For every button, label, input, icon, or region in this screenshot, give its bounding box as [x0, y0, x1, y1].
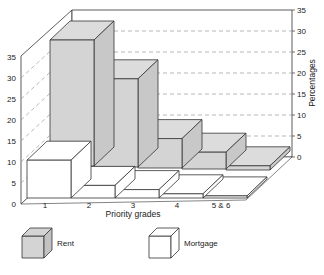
right-tick-label: 10: [297, 111, 306, 120]
left-tick-label: 35: [7, 53, 16, 62]
x-tick-label: 1: [43, 201, 48, 210]
bar-front-face: [203, 196, 247, 198]
left-tick-label: 10: [7, 158, 16, 167]
right-tick-label: 0: [297, 153, 302, 162]
x-axis-title: Priority grades: [106, 209, 161, 219]
left-tick-label: 0: [12, 200, 17, 209]
left-tick-label: 15: [7, 137, 16, 146]
left-y-axis-ticks: 05101520253035: [7, 53, 16, 209]
right-y-axis-ticks: 05101520253035: [292, 6, 306, 162]
x-tick-label: 2: [87, 201, 92, 210]
y-axis-title: Percentages: [307, 59, 317, 107]
legend-mortgage-label: Mortgage: [184, 239, 218, 248]
left-tick-label: 30: [7, 74, 16, 83]
bar-chart-3d: 05101520253035 05101520253035 12345 & 6 …: [0, 0, 324, 275]
legend-rent-swatch-icon: [22, 228, 52, 258]
bar-front-face: [226, 166, 270, 170]
bar-side-face: [138, 60, 158, 167]
left-tick-label: 25: [7, 95, 16, 104]
left-tick-label: 5: [12, 179, 17, 188]
legend: Rent Mortgage: [22, 228, 218, 258]
right-tick-label: 5: [297, 132, 302, 141]
right-tick-label: 30: [297, 27, 306, 36]
bar-front-face: [27, 160, 71, 198]
right-tick-label: 25: [297, 48, 306, 57]
bar-front-face: [159, 194, 203, 198]
right-tick-label: 20: [297, 69, 306, 78]
right-tick-label: 15: [297, 90, 306, 99]
legend-mortgage-swatch-icon: [149, 228, 179, 258]
bar-side-face: [94, 21, 114, 166]
right-tick-label: 35: [297, 6, 306, 15]
left-tick-label: 20: [7, 116, 16, 125]
x-tick-label: 5 & 6: [212, 201, 231, 210]
x-tick-label: 4: [175, 201, 180, 210]
legend-rent-label: Rent: [57, 239, 75, 248]
